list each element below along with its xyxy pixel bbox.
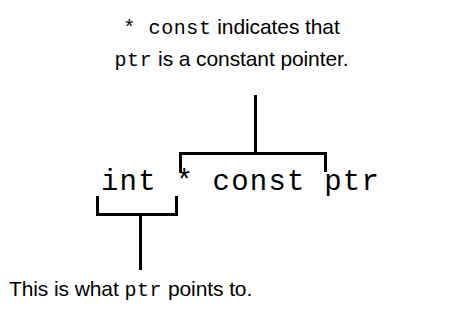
top-annotation: * const indicates that ptr is a constant… xyxy=(0,12,463,76)
top-annotation-line-1: * const indicates that xyxy=(0,12,463,44)
code-expression: int * const ptr xyxy=(101,166,380,200)
top-annotation-line-1-text: indicates that xyxy=(212,15,340,38)
top-annotation-line-2-code: ptr xyxy=(115,49,153,72)
bottom-annotation-code: ptr xyxy=(124,279,162,302)
top-annotation-line-2: ptr is a constant pointer. xyxy=(0,44,463,76)
declaration-diagram: * const indicates that ptr is a constant… xyxy=(0,0,463,314)
bottom-annotation-text-after: points to. xyxy=(162,277,252,300)
bottom-annotation: This is what ptr points to. xyxy=(9,274,252,306)
top-annotation-line-1-code: * const xyxy=(123,17,211,40)
top-annotation-line-2-text: is a constant pointer. xyxy=(152,47,348,70)
bottom-annotation-text-before: This is what xyxy=(9,277,124,300)
